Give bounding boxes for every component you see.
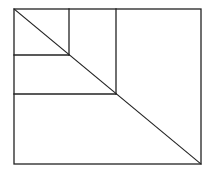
- square-diagonal-diagram: [0, 0, 212, 172]
- diagonal-line: [14, 9, 201, 164]
